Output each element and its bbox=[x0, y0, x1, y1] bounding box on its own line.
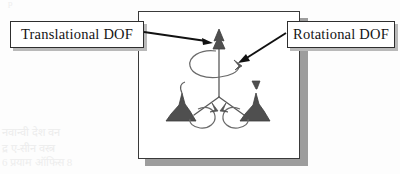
callout-translational-dof[interactable]: Translational DOF bbox=[10, 21, 144, 48]
rotational-marker-top bbox=[190, 51, 242, 78]
callout-rotational-dof[interactable]: Rotational DOF bbox=[287, 21, 395, 48]
translational-marker-top bbox=[213, 29, 225, 49]
callout-translational-dof-label: Translational DOF bbox=[21, 26, 133, 43]
translational-marker-lower-right bbox=[240, 81, 270, 121]
ghost-text-e: 6 प्रयाम ऑफिस 8 bbox=[2, 154, 72, 169]
callout-rotational-dof-label: Rotational DOF bbox=[293, 26, 389, 43]
limb-lower-left bbox=[194, 97, 219, 115]
dof-mechanism-diagram bbox=[138, 11, 300, 159]
figure-screenshot: p a Serv नवान्वी देश वन द्र ए-सीन वस्त्र… bbox=[0, 0, 400, 174]
limb-lower-right bbox=[219, 97, 244, 115]
ghost-text-c: नवान्वी देश वन bbox=[2, 124, 60, 139]
translational-marker-lower-left bbox=[166, 82, 196, 121]
ghost-text-d: द्र ए-सीन वस्त्र bbox=[2, 140, 55, 155]
ghost-text-a: p bbox=[8, 0, 13, 8]
